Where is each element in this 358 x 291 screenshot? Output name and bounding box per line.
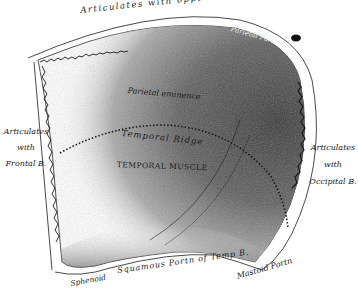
left-border-line-1: Articulates <box>2 128 50 136</box>
label-left-border: Articulates with Frontal B. <box>2 128 50 168</box>
label-right-border: Articulates with Occipital B. <box>308 144 358 186</box>
right-border-line-1: Articulates <box>308 144 358 152</box>
right-border-line-2: with <box>308 161 358 169</box>
right-border-line-3: Occipital B. <box>308 178 358 186</box>
left-border-line-3: Frontal B. <box>2 160 50 168</box>
parietal-foramen-hole <box>291 35 301 42</box>
left-border-line-2: with <box>2 144 50 152</box>
